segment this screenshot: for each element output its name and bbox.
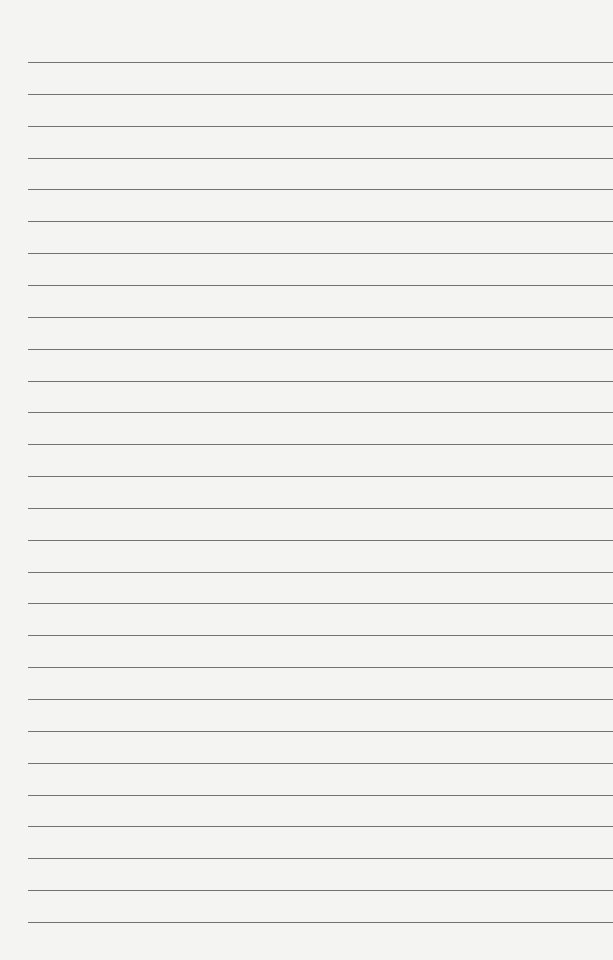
ruled-line bbox=[28, 731, 613, 732]
ruled-line bbox=[28, 126, 613, 127]
ruled-line bbox=[28, 94, 613, 95]
ruled-line bbox=[28, 158, 613, 159]
ruled-line bbox=[28, 540, 613, 541]
ruled-line bbox=[28, 62, 613, 63]
ruled-line bbox=[28, 444, 613, 445]
ruled-line bbox=[28, 412, 613, 413]
ruled-line bbox=[28, 221, 613, 222]
ruled-line bbox=[28, 603, 613, 604]
ruled-line bbox=[28, 189, 613, 190]
ruled-line bbox=[28, 476, 613, 477]
ruled-line bbox=[28, 858, 613, 859]
lined-paper-page bbox=[0, 0, 613, 960]
ruled-line bbox=[28, 349, 613, 350]
ruled-line bbox=[28, 317, 613, 318]
ruled-line bbox=[28, 667, 613, 668]
ruled-line bbox=[28, 572, 613, 573]
ruled-line bbox=[28, 381, 613, 382]
ruled-line bbox=[28, 635, 613, 636]
ruled-line bbox=[28, 826, 613, 827]
ruled-line bbox=[28, 795, 613, 796]
ruled-line bbox=[28, 253, 613, 254]
ruled-line bbox=[28, 699, 613, 700]
ruled-line bbox=[28, 763, 613, 764]
ruled-line bbox=[28, 922, 613, 923]
ruled-line bbox=[28, 508, 613, 509]
ruled-line bbox=[28, 890, 613, 891]
ruled-line bbox=[28, 285, 613, 286]
